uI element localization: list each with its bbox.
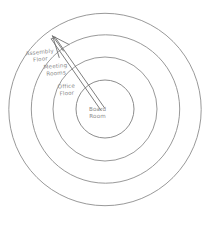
board-room-line-2: Room [89, 113, 106, 120]
ring-label-board-room: Board Room [89, 106, 106, 120]
diagram-canvas [0, 0, 215, 231]
ring-label-assembly-floor: Assembly Floor [25, 48, 55, 65]
ring-label-office-floor: Office Floor [58, 82, 76, 98]
board-room-line-1: Board [89, 106, 106, 113]
concentric-rings-diagram: Assembly Floor Meeting Rooms Office Floo… [0, 0, 215, 231]
ring-label-meeting-rooms: Meeting Rooms [43, 62, 68, 78]
office-floor-line-2: Floor [58, 90, 76, 98]
